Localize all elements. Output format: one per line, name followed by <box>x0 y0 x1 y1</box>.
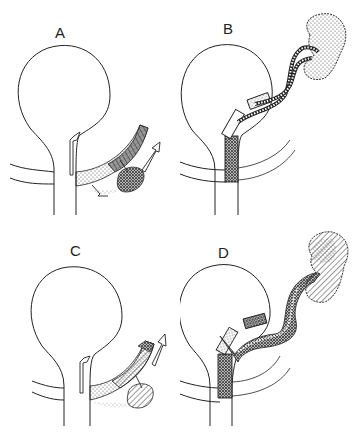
diagram-b <box>180 0 361 216</box>
diagram-c <box>0 216 180 432</box>
panel-c: C <box>0 216 180 432</box>
panel-d: D <box>180 216 360 432</box>
diagram-a <box>0 0 180 216</box>
panel-a: A <box>0 0 180 216</box>
panel-b: B <box>180 0 360 216</box>
diagram-d <box>180 216 361 432</box>
